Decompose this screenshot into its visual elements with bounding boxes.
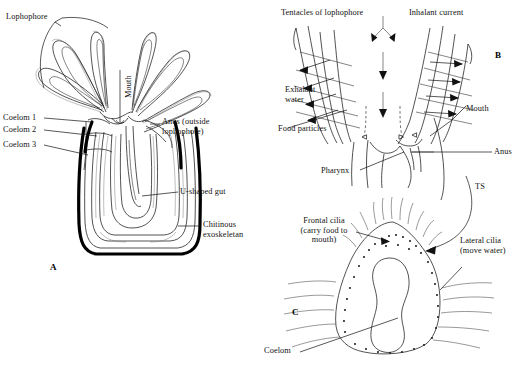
diagram-artwork — [0, 0, 528, 365]
label-chitinous-exoskeletan: Chitinous exoskeletan — [203, 220, 243, 239]
panel-letter-a: A — [50, 262, 57, 272]
panel-letter-c: C — [292, 307, 299, 317]
label-food-particles: Food particles — [278, 124, 327, 134]
panel-letter-b: B — [495, 50, 501, 60]
label-coelom-3: Coelom 3 — [3, 140, 36, 150]
label-u-shaped-gut: U-shaped gut — [180, 187, 226, 197]
label-pharynx: Pharynx — [321, 166, 349, 176]
panel-b-artwork — [288, 16, 492, 200]
label-coelom-2: Coelom 2 — [3, 125, 36, 135]
label-frontal-cilia: Frontal cilia (carry food to mouth) — [288, 216, 360, 245]
tentacle-centre-right — [132, 33, 156, 113]
inhalant-current-arrows — [371, 16, 396, 118]
label-tentacles-of-lophophore: Tentacles of lophophore — [281, 8, 363, 18]
coelom-lumen — [371, 258, 409, 353]
label-lateral-cilia: Lateral cilia (move water) — [460, 236, 506, 255]
u-shaped-gut — [92, 126, 188, 242]
label-anus-b: Anus — [494, 147, 512, 157]
label-coelom-c: Coelom — [264, 346, 291, 356]
pharynx-mouth-anus-b — [352, 118, 444, 200]
label-inhalant-current: Inhalant current — [409, 8, 463, 18]
figure-canvas: Lophophore Mouth Coelom 1 Coelom 2 Coelo… — [0, 0, 528, 365]
label-mouth-b: Mouth — [466, 104, 489, 114]
panel-c-artwork — [284, 176, 494, 354]
label-anus-outside-lophophore: Anus (outside lophophore) — [162, 117, 210, 136]
food-particle-paths — [362, 106, 417, 139]
tentacle-left — [52, 39, 104, 112]
label-ts: TS — [475, 182, 485, 192]
label-lophophore: Lophophore — [6, 12, 48, 22]
tentacles-right-b — [398, 26, 472, 144]
label-exhalant-water: Exhalant water — [285, 85, 315, 104]
label-coelom-1: Coelom 1 — [3, 113, 36, 123]
label-mouth-a: Mouth — [124, 75, 134, 98]
